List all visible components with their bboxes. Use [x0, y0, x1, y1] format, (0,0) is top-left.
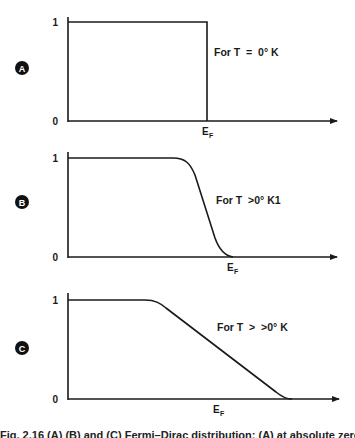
- panel-c-badge: C: [15, 341, 29, 355]
- panel-c-annotation: For T > >0° K: [217, 321, 288, 333]
- panel-c-curve: [68, 300, 292, 399]
- panel-a-ef-sub: F: [209, 132, 214, 139]
- panel-a-curve: [68, 22, 207, 121]
- figure-caption: Fig. 2.16 (A) (B) and (C) Fermi–Dirac di…: [0, 429, 355, 438]
- panel-b: B 1 0 E F For T >0° K1: [15, 152, 337, 275]
- panel-a-badge-label: A: [19, 64, 26, 74]
- panel-b-badge-label: B: [19, 198, 26, 208]
- panel-a: A 1 0 E F For T = 0° K: [15, 17, 337, 139]
- panel-b-ef-main: E: [227, 262, 234, 273]
- panel-c-ef-label: E F: [213, 404, 225, 417]
- panel-b-y-tick-0: 0: [52, 252, 58, 263]
- panel-a-y-tick-0: 0: [52, 116, 58, 127]
- panel-c-badge-label: C: [19, 344, 26, 354]
- panel-a-annotation: For T = 0° K: [214, 46, 279, 58]
- panel-b-curve: [68, 158, 233, 257]
- panel-a-y-tick-1: 1: [52, 17, 58, 28]
- panel-b-ef-sub: F: [234, 268, 239, 275]
- fermi-dirac-figure: A 1 0 E F For T = 0° K B 1 0 E F For T >…: [0, 0, 355, 438]
- panel-a-ef-main: E: [202, 126, 209, 137]
- panel-a-ef-label: E F: [202, 126, 214, 139]
- panel-b-y-tick-1: 1: [52, 153, 58, 164]
- panel-b-annotation: For T >0° K1: [216, 194, 281, 206]
- panel-c-ef-main: E: [213, 404, 220, 415]
- panel-c-y-tick-1: 1: [52, 295, 58, 306]
- panel-c: C 1 0 E F For T > >0° K: [15, 293, 339, 417]
- panel-b-ef-label: E F: [227, 262, 239, 275]
- panel-b-badge: B: [15, 195, 29, 209]
- panel-c-ef-sub: F: [220, 410, 225, 417]
- panel-a-badge: A: [15, 61, 29, 75]
- panel-c-y-tick-0: 0: [52, 394, 58, 405]
